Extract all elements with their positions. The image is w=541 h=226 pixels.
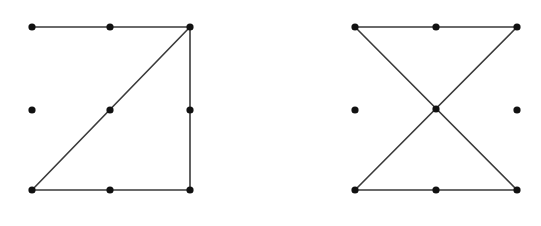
grid-dot (432, 105, 439, 112)
right-figure (351, 23, 520, 193)
grid-dot (513, 106, 520, 113)
grid-dot (28, 106, 35, 113)
grid-dot (513, 186, 520, 193)
grid-dot (106, 106, 113, 113)
left-figure (28, 23, 193, 193)
grid-dot (28, 23, 35, 30)
grid-dot (186, 23, 193, 30)
grid-dot (432, 23, 439, 30)
grid-dot (106, 186, 113, 193)
grid-dot (351, 23, 358, 30)
diagram-canvas (0, 0, 541, 226)
grid-dot (106, 23, 113, 30)
grid-dot (186, 186, 193, 193)
grid-dot (351, 186, 358, 193)
grid-dot (351, 106, 358, 113)
grid-dot (186, 106, 193, 113)
grid-dot (432, 186, 439, 193)
grid-dot (28, 186, 35, 193)
grid-dot (513, 23, 520, 30)
